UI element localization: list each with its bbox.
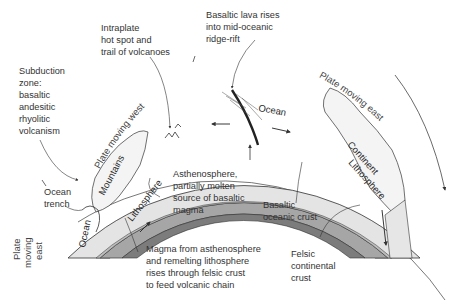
label-felsic-crust: Felsic continental crust: [291, 249, 335, 283]
svg-text:source of basaltic: source of basaltic: [173, 193, 245, 203]
svg-text:trail of volcanoes: trail of volcanoes: [101, 47, 170, 57]
svg-text:moving: moving: [22, 237, 33, 268]
hotspot-volcanoes: [165, 124, 181, 138]
svg-text:crust: crust: [291, 273, 311, 283]
svg-text:rhyolitic: rhyolitic: [19, 114, 51, 124]
leader-subduction: [40, 140, 78, 180]
svg-text:Subduction: Subduction: [19, 66, 65, 76]
label-magma: Magma from asthenosphere and remelting l…: [146, 244, 261, 290]
svg-text:Plate: Plate: [11, 238, 22, 260]
svg-text:to feed volcanic chain: to feed volcanic chain: [146, 280, 234, 290]
svg-text:Basaltic: Basaltic: [263, 200, 296, 210]
svg-text:ridge-rift: ridge-rift: [206, 34, 240, 44]
svg-text:trench: trench: [44, 199, 70, 209]
svg-text:zone:: zone:: [19, 78, 41, 88]
label-plate-moving-east-left: Plate moving east: [11, 237, 44, 268]
svg-text:oceanic crust: oceanic crust: [263, 212, 318, 222]
flow-arrow: [272, 128, 290, 132]
svg-text:Ocean: Ocean: [44, 187, 71, 197]
svg-text:andesitic: andesitic: [19, 102, 56, 112]
label-hotspot: Intraplate hot spot and trail of volcano…: [101, 23, 170, 57]
svg-text:Magma from asthenosphere: Magma from asthenosphere: [146, 244, 261, 254]
plate-tectonics-diagram: Plate moving west Plate moving east Plat…: [0, 0, 462, 300]
label-subduction: Subduction zone: basaltic andesitic rhyo…: [19, 66, 65, 136]
svg-text:basaltic: basaltic: [19, 90, 51, 100]
svg-text:magma: magma: [173, 205, 205, 215]
svg-text:Basaltic lava rises: Basaltic lava rises: [206, 10, 280, 20]
svg-text:and remelting lithosphere: and remelting lithosphere: [146, 256, 249, 266]
svg-text:Felsic: Felsic: [291, 249, 315, 259]
label-ocean-top: Ocean: [258, 102, 287, 118]
svg-text:volcanism: volcanism: [19, 126, 60, 136]
svg-text:into mid-oceanic: into mid-oceanic: [206, 22, 273, 32]
svg-text:hot spot and: hot spot and: [101, 35, 152, 45]
svg-text:east: east: [33, 242, 44, 260]
svg-text:rises through felsic crust: rises through felsic crust: [146, 268, 246, 278]
plate-east-arrow: [395, 75, 445, 190]
svg-text:Asthenosphere,: Asthenosphere,: [173, 169, 237, 179]
svg-text:continental: continental: [291, 261, 335, 271]
label-trench: Ocean trench: [44, 187, 71, 209]
svg-text:partially molten: partially molten: [173, 181, 235, 191]
leader-hotspot: [150, 57, 170, 128]
mid-ocean-ridge: [232, 90, 258, 145]
leader-ridge: [232, 40, 255, 88]
svg-text:Intraplate: Intraplate: [101, 23, 139, 33]
label-ridge: Basaltic lava rises into mid-oceanic rid…: [206, 10, 280, 44]
